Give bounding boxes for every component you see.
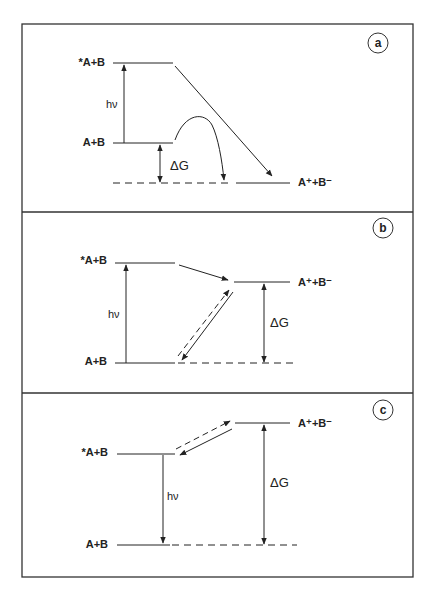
panel-c: c *A+B A⁺+B⁻ A+B hν ΔG xyxy=(81,400,393,550)
panel-a: a *A+B A+B hν A⁺+B⁻ ΔG xyxy=(78,33,388,188)
level-label-ground: A+B xyxy=(86,538,108,550)
panel-letter-b: b xyxy=(379,221,386,235)
electron-transfer-arrow xyxy=(179,265,228,280)
dashed-forward-arrow xyxy=(176,421,230,449)
dashed-forward-arrow xyxy=(178,290,229,356)
panel-letter-badge-a: a xyxy=(368,33,388,53)
back-transfer-arrow xyxy=(182,292,233,360)
level-label-excited: *A+B xyxy=(81,446,108,458)
delta-g-label: ΔG xyxy=(270,315,289,330)
panel-letter-c: c xyxy=(380,403,387,417)
level-label-excited: *A+B xyxy=(80,254,107,266)
level-label-ground: A+B xyxy=(83,136,105,148)
figure-frame xyxy=(22,24,413,577)
delta-g-label: ΔG xyxy=(170,158,189,173)
photon-label: hν xyxy=(108,308,120,320)
photon-label: hν xyxy=(106,98,118,110)
panel-letter-badge-c: c xyxy=(373,400,393,420)
panel-letter-badge-b: b xyxy=(373,218,393,238)
panel-b: b *A+B A+B A⁺+B⁻ hν ΔG xyxy=(80,218,393,367)
level-label-ground: A+B xyxy=(85,355,107,367)
level-label-excited: *A+B xyxy=(78,56,105,68)
delta-g-label: ΔG xyxy=(270,475,289,490)
electron-transfer-arrow xyxy=(175,66,272,176)
level-label-ion-pair: A⁺+B⁻ xyxy=(298,176,332,188)
level-label-ion-pair: A⁺+B⁻ xyxy=(298,276,332,288)
photon-label: hν xyxy=(167,490,179,502)
panel-letter-a: a xyxy=(375,36,382,50)
energy-level-diagram: a *A+B A+B hν A⁺+B⁻ ΔG b *A+B A+B A⁺ xyxy=(0,0,434,599)
level-label-ion-pair: A⁺+B⁻ xyxy=(298,417,332,429)
